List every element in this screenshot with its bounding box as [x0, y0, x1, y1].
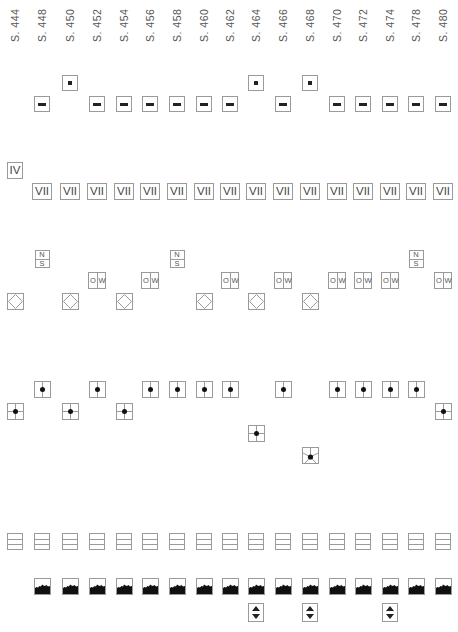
- dot-crosshair-icon: [116, 403, 133, 420]
- dash-icon: [34, 96, 50, 112]
- west-label: W: [364, 273, 372, 288]
- column-header: S. 458: [167, 0, 187, 62]
- dash-icon: [329, 96, 345, 112]
- dash-icon: [275, 96, 291, 112]
- east-label: O: [89, 273, 98, 288]
- east-west-icon: OW: [221, 272, 239, 289]
- column-header-label: S. 450: [64, 9, 76, 42]
- column-header: S. 444: [5, 0, 25, 62]
- landscape-silhouette-icon: [222, 578, 239, 595]
- column-header-label: S. 466: [277, 9, 289, 42]
- dot-vertical-line-icon: [142, 381, 159, 398]
- roman-numeral-vii: VII: [220, 183, 240, 200]
- roman-numeral-vii: VII: [32, 183, 52, 200]
- dash-icon: [408, 96, 424, 112]
- dot-vertical-line-icon: [89, 381, 106, 398]
- three-lines-icon: [302, 533, 318, 550]
- south-label: S: [171, 260, 184, 268]
- dot-vertical-line-icon: [222, 381, 239, 398]
- dash-icon: [142, 96, 158, 112]
- roman-numeral-vii: VII: [273, 183, 293, 200]
- landscape-silhouette-icon: [275, 578, 292, 595]
- roman-numeral-vii: VII: [60, 183, 80, 200]
- dot-vertical-line-icon: [408, 381, 425, 398]
- dot-vertical-line-icon: [34, 381, 51, 398]
- dash-icon: [116, 96, 132, 112]
- west-label: W: [338, 273, 346, 288]
- east-label: O: [275, 273, 284, 288]
- landscape-silhouette-icon: [89, 578, 106, 595]
- column-header-label: S. 458: [171, 9, 183, 42]
- west-label: W: [284, 273, 292, 288]
- dot-vertical-line-icon: [169, 381, 186, 398]
- three-lines-icon: [62, 533, 78, 550]
- three-lines-icon: [275, 533, 291, 550]
- dot-crosshair-icon: [248, 425, 265, 442]
- column-header: S. 470: [327, 0, 347, 62]
- roman-numeral-vii: VII: [246, 183, 266, 200]
- roman-numeral-vii: VII: [406, 183, 426, 200]
- column-header-label: S. 454: [118, 9, 130, 42]
- west-label: W: [151, 273, 159, 288]
- dash-icon: [382, 96, 398, 112]
- three-lines-icon: [382, 533, 398, 550]
- landscape-silhouette-icon: [355, 578, 372, 595]
- east-west-icon: OW: [381, 272, 399, 289]
- landscape-silhouette-icon: [382, 578, 399, 595]
- three-lines-icon: [222, 533, 238, 550]
- dot-vertical-line-icon: [355, 381, 372, 398]
- landscape-silhouette-icon: [329, 578, 346, 595]
- landscape-silhouette-icon: [435, 578, 452, 595]
- west-label: W: [444, 273, 452, 288]
- west-label: W: [391, 273, 399, 288]
- dot-crosshair-icon: [62, 403, 79, 420]
- small-square-icon: [62, 75, 78, 91]
- dash-icon: [435, 96, 451, 112]
- east-west-icon: OW: [141, 272, 159, 289]
- column-header: S. 468: [300, 0, 320, 62]
- dash-icon: [169, 96, 185, 112]
- north-south-icon: NS: [35, 250, 50, 268]
- roman-numeral-vii: VII: [327, 183, 347, 200]
- column-header-label: S. 448: [36, 9, 48, 42]
- roman-numeral-vii: VII: [140, 183, 160, 200]
- east-label: O: [382, 273, 391, 288]
- column-header: S. 480: [433, 0, 453, 62]
- dash-icon: [355, 96, 371, 112]
- east-west-icon: OW: [354, 272, 372, 289]
- landscape-silhouette-icon: [169, 578, 186, 595]
- diamond-in-square-icon: [302, 293, 319, 310]
- east-label: O: [329, 273, 338, 288]
- column-header: S. 466: [273, 0, 293, 62]
- roman-numeral-vii: VII: [87, 183, 107, 200]
- landscape-silhouette-icon: [302, 578, 319, 595]
- column-header-label: S. 452: [91, 9, 103, 42]
- small-square-icon: [248, 75, 264, 91]
- east-label: O: [222, 273, 231, 288]
- column-header-label: S. 462: [224, 9, 236, 42]
- south-label: S: [410, 260, 423, 268]
- dot-crosshair-icon: [435, 403, 452, 420]
- dot-vertical-line-icon: [382, 381, 399, 398]
- dot-vertical-line-icon: [196, 381, 213, 398]
- up-down-arrows-icon: [248, 603, 264, 622]
- three-lines-icon: [7, 533, 23, 550]
- roman-numeral-vii: VII: [380, 183, 400, 200]
- roman-numeral-vii: VII: [114, 183, 134, 200]
- roman-numeral-iv: IV: [7, 162, 24, 179]
- landscape-silhouette-icon: [196, 578, 213, 595]
- up-down-arrows-icon: [382, 603, 398, 622]
- column-header-label: S. 472: [357, 9, 369, 42]
- west-label: W: [231, 273, 239, 288]
- three-lines-icon: [34, 533, 50, 550]
- north-south-icon: NS: [170, 250, 185, 268]
- column-header: S. 456: [140, 0, 160, 62]
- column-header: S. 462: [220, 0, 240, 62]
- east-west-icon: OW: [88, 272, 106, 289]
- landscape-silhouette-icon: [34, 578, 51, 595]
- column-header: S. 474: [380, 0, 400, 62]
- dash-icon: [89, 96, 105, 112]
- column-header: S. 452: [87, 0, 107, 62]
- east-west-icon: OW: [328, 272, 346, 289]
- landscape-silhouette-icon: [408, 578, 425, 595]
